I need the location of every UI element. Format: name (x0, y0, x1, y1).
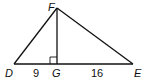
length-dg: 9 (33, 67, 39, 79)
segment-fe (57, 8, 133, 64)
segment-df (14, 8, 57, 64)
triangle-diagram: F D G E 9 16 (0, 0, 144, 79)
vertex-label-g: G (52, 67, 61, 79)
length-ge: 16 (91, 67, 103, 79)
right-angle-marker (50, 57, 57, 64)
vertex-label-e: E (134, 67, 142, 79)
vertex-label-d: D (5, 67, 13, 79)
